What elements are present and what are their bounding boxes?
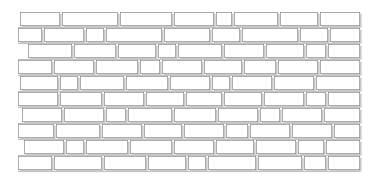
brick-face [174, 108, 216, 122]
brick-face [170, 76, 210, 90]
brick-face [44, 28, 84, 42]
brick-face [306, 92, 326, 106]
brick-face [64, 108, 104, 122]
brick-face [320, 60, 360, 74]
brick-face [56, 124, 100, 138]
brick-face [242, 28, 298, 42]
brick-face [224, 92, 262, 106]
brick-face [162, 60, 202, 74]
brick-face [278, 60, 318, 74]
brick-face [328, 92, 360, 106]
brick-face [20, 76, 58, 90]
brick-face [18, 124, 54, 138]
brick-face [106, 28, 162, 42]
brick-face [174, 12, 214, 26]
brick-face [244, 60, 276, 74]
brick-face [86, 28, 104, 42]
brick-face [146, 92, 184, 106]
brick-face [204, 60, 242, 74]
brick-face [256, 140, 296, 154]
brick-face [324, 108, 360, 122]
brick-face [334, 124, 360, 138]
brick-face [216, 140, 254, 154]
brick-face [128, 108, 172, 122]
brick-face [54, 156, 102, 170]
brick-face [18, 28, 42, 42]
brick-face [80, 76, 124, 90]
brick-face [292, 124, 332, 138]
brick-face [260, 108, 280, 122]
brick-face [330, 28, 360, 42]
brick-face [104, 92, 144, 106]
brick-face [18, 156, 52, 170]
brick-courses-layer [18, 12, 362, 172]
brick-face [126, 76, 168, 90]
brick-face [328, 44, 360, 58]
brick-face [66, 140, 84, 154]
brick-face [266, 44, 304, 58]
brick-face [226, 124, 248, 138]
brick-face [234, 12, 278, 26]
brick-course [18, 44, 362, 60]
brick-face [62, 12, 118, 26]
brick-face [60, 76, 78, 90]
brick-face [18, 92, 58, 106]
brick-face [186, 92, 222, 106]
brick-face [18, 60, 52, 74]
brick-face [216, 12, 232, 26]
brick-face [218, 108, 258, 122]
brick-face [274, 76, 314, 90]
brick-face [74, 44, 116, 58]
brick-face [106, 108, 126, 122]
brick-face [60, 92, 102, 106]
brick-face [304, 156, 326, 170]
brick-face [118, 44, 156, 58]
brick-course [18, 124, 362, 140]
brick-face [120, 12, 172, 26]
brick-face [184, 124, 224, 138]
brick-face [232, 76, 272, 90]
brick-face [320, 12, 360, 26]
brick-course [18, 28, 362, 44]
brick-face [164, 28, 210, 42]
brick-face [306, 44, 326, 58]
brick-face [86, 140, 128, 154]
brick-course [18, 140, 362, 156]
brick-face [28, 44, 72, 58]
brick-course [18, 108, 362, 124]
brick-course [18, 156, 362, 172]
brick-face [326, 140, 360, 154]
brick-course [18, 12, 362, 28]
brick-course [18, 92, 362, 108]
brick-face [300, 28, 328, 42]
brick-face [212, 76, 230, 90]
brick-face [174, 140, 214, 154]
brick-wall-drawing [0, 0, 375, 184]
brick-face [54, 60, 94, 74]
brick-face [24, 140, 64, 154]
brick-face [208, 156, 256, 170]
brick-course [18, 76, 362, 92]
brick-face [328, 156, 360, 170]
brick-face [298, 140, 324, 154]
brick-face [140, 60, 160, 74]
brick-face [178, 44, 222, 58]
brick-face [158, 44, 176, 58]
brick-face [258, 156, 302, 170]
brick-wall-figure [0, 0, 375, 184]
brick-face [212, 28, 240, 42]
brick-face [96, 60, 138, 74]
brick-face [250, 124, 290, 138]
brick-face [104, 156, 146, 170]
brick-face [280, 12, 318, 26]
brick-face [102, 124, 142, 138]
brick-face [148, 156, 186, 170]
brick-face [316, 76, 360, 90]
brick-course [18, 60, 362, 76]
brick-face [20, 12, 60, 26]
brick-face [130, 140, 172, 154]
brick-face [282, 108, 322, 122]
brick-face [22, 108, 62, 122]
brick-face [144, 124, 182, 138]
brick-face [188, 156, 206, 170]
